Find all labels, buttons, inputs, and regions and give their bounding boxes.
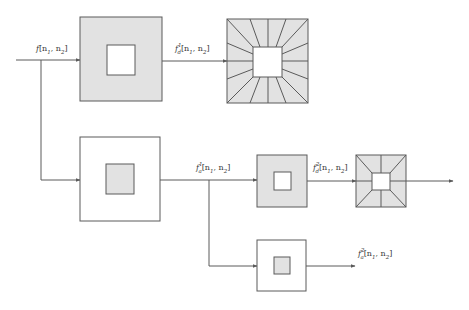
- approx-level1-label: f1a[n1, n2]: [196, 163, 230, 172]
- contourlet-diagram: [0, 0, 469, 310]
- lowpass-block-2: [257, 240, 306, 291]
- highpass-block-2: [257, 155, 307, 207]
- lowpass-block-1: [80, 137, 160, 221]
- input-signal-label: f[n1, n2]: [36, 44, 68, 53]
- detail-level1-label: f1d[n1, n2]: [175, 44, 210, 53]
- highpass-block-1: [80, 17, 162, 101]
- detail-level2-label: f2d[n1, n2]: [313, 163, 348, 172]
- directional-filterbank-block-1: [227, 19, 308, 103]
- approx-level2-label: f2a[n1, n2]: [358, 249, 392, 258]
- lowpass-branch-arrow: [41, 60, 80, 180]
- directional-filterbank-block-2: [356, 155, 406, 207]
- lowpass2-branch-arrow: [209, 180, 257, 266]
